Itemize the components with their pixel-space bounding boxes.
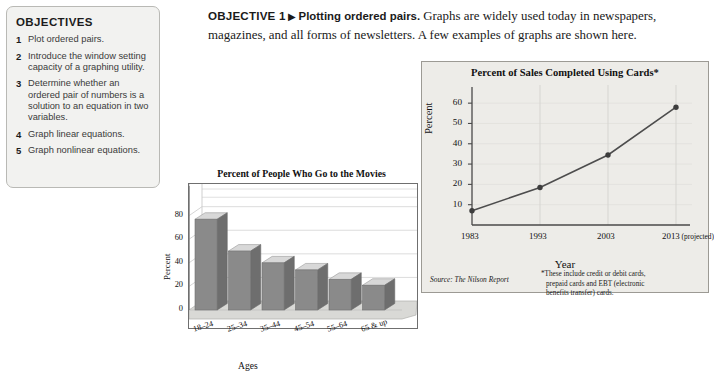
objectives-title: OBJECTIVES [16, 16, 151, 28]
objective-number: 3 [16, 78, 28, 123]
line-chart-y-tick: 60 [444, 97, 462, 107]
line-chart-x-tick: 2013 (projected) [662, 231, 714, 241]
footnote-line: *These include credit or debit cards, [541, 270, 646, 278]
bar-chart-frame [188, 183, 418, 329]
objective-item: 2 Introduce the window setting capacity … [16, 51, 151, 74]
objective-item: 1 Plot ordered pairs. [16, 34, 151, 46]
triangle-right-icon: ▶ [286, 11, 299, 22]
line-chart-title: Percent of Sales Completed Using Cards* [422, 67, 708, 78]
objectives-box: OBJECTIVES 1 Plot ordered pairs. 2 Intro… [6, 6, 160, 188]
footnote-line: benefits transfer) cards. [541, 289, 701, 299]
line-chart-x-tick: 1983 [461, 231, 479, 241]
objective-number: 4 [16, 129, 28, 141]
objective-heading: OBJECTIVE 1▶Plotting ordered pairs. Grap… [208, 7, 708, 45]
line-chart-footnote: *These include credit or debit cards, pr… [541, 270, 701, 299]
line-chart-x-axis-label: Year [422, 258, 708, 270]
bar-chart-y-tick: 20 [167, 280, 183, 289]
objective-text: Introduce the window setting capacity of… [28, 51, 151, 74]
line-chart-x-tick: 1993 [529, 231, 547, 241]
bar-chart-svg [189, 184, 417, 328]
objective-number: 1 [16, 34, 28, 46]
objective-number: 5 [16, 145, 28, 157]
line-chart-y-tick: 50 [444, 117, 462, 127]
objective-text: Plot ordered pairs. [28, 34, 104, 46]
objective-text: Graph nonlinear equations. [28, 145, 140, 157]
line-chart-svg [466, 85, 692, 237]
objective-text: Graph linear equations. [28, 129, 125, 141]
objective-tag: OBJECTIVE 1 [208, 9, 286, 22]
line-chart-panel: Percent of Sales Completed Using Cards* … [421, 61, 709, 293]
bar-chart-y-tick: 0 [167, 304, 183, 313]
bar-chart-y-tick: 80 [167, 210, 183, 219]
line-chart-source: Source: The Nilson Report [430, 275, 509, 284]
footnote-line: prepaid cards and EBT (electronic [541, 280, 701, 290]
bar-chart-y-tick: 40 [167, 257, 183, 266]
line-chart-y-tick: 40 [444, 138, 462, 148]
bar-chart-title: Percent of People Who Go to the Movies [184, 168, 419, 179]
bar-chart-x-axis-label: Ages [238, 360, 258, 371]
bar-chart-y-tick: 60 [167, 233, 183, 242]
bar-chart-panel: Percent of People Who Go to the Movies P… [160, 168, 425, 375]
objective-item: 3 Determine whether an ordered pair of n… [16, 78, 151, 123]
line-chart-y-tick: 30 [444, 158, 462, 168]
objective-item: 5 Graph nonlinear equations. [16, 145, 151, 157]
line-chart-x-tick: 2003 [597, 231, 615, 241]
objective-number: 2 [16, 51, 28, 74]
objective-subtitle: Plotting ordered pairs. [299, 10, 421, 22]
line-chart-y-tick: 20 [444, 178, 462, 188]
objective-text: Determine whether an ordered pair of num… [28, 78, 151, 123]
line-chart-y-tick: 10 [444, 199, 462, 209]
line-chart-plot-area [466, 85, 692, 237]
objective-item: 4 Graph linear equations. [16, 129, 151, 141]
line-chart-y-axis-label: Percent [423, 103, 434, 135]
